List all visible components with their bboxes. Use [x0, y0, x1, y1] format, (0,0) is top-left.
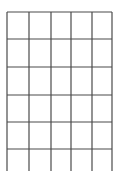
grid-diagram [0, 0, 127, 178]
